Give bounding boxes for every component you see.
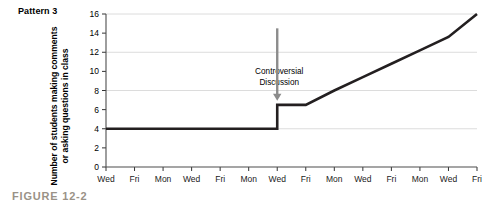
x-tick-label: Wed: [183, 174, 201, 184]
y-tick-label: 12: [90, 47, 100, 57]
x-tick-label: Wed: [354, 174, 372, 184]
x-axis-ticks: WedFriMonWedFriMonWedFriMonWedFriMonWedF…: [97, 167, 482, 184]
y-tick-label: 2: [94, 143, 99, 153]
y-tick-label: 8: [94, 86, 99, 96]
figure-container: Pattern 3 Number of students making comm…: [0, 0, 489, 211]
x-tick-label: Fri: [386, 174, 396, 184]
x-tick-label: Fri: [215, 174, 225, 184]
y-tick-label: 4: [94, 124, 99, 134]
y-tick-label: 10: [90, 66, 100, 76]
annotation-group: ControversialDiscussion: [255, 28, 303, 101]
x-tick-label: Fri: [301, 174, 311, 184]
x-tick-label: Mon: [240, 174, 257, 184]
y-tick-label: 16: [90, 9, 100, 19]
y-axis-ticks: 0246810121416: [90, 9, 106, 172]
x-tick-label: Wed: [269, 174, 287, 184]
y-tick-label: 6: [94, 105, 99, 115]
x-tick-label: Mon: [155, 174, 172, 184]
y-tick-label: 0: [94, 162, 99, 172]
x-tick-label: Wed: [97, 174, 115, 184]
annotation-line-2: Discussion: [259, 78, 299, 87]
x-tick-label: Mon: [412, 174, 429, 184]
annotation-line-1: Controversial: [255, 67, 303, 76]
annotation-arrow-head: [273, 94, 281, 101]
line-chart-plot: 0246810121416 WedFriMonWedFriMonWedFriMo…: [0, 0, 489, 211]
x-tick-label: Fri: [472, 174, 482, 184]
y-tick-label: 14: [90, 28, 100, 38]
figure-caption: FIGURE 12-2: [12, 190, 87, 202]
x-tick-label: Fri: [130, 174, 140, 184]
x-tick-label: Wed: [440, 174, 458, 184]
x-tick-label: Mon: [326, 174, 343, 184]
